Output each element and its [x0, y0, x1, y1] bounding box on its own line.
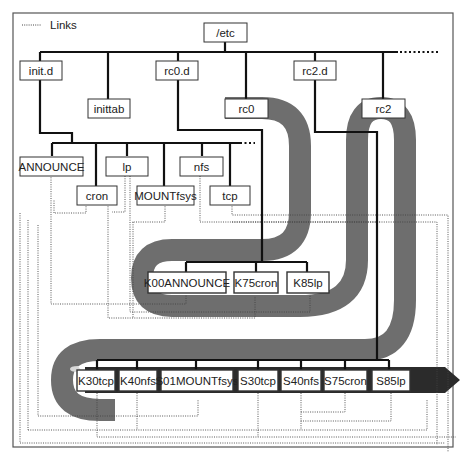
- svg-text:S01MOUNTfsys: S01MOUNTfsys: [155, 375, 238, 387]
- etc-rc-directory-diagram: Links: [0, 0, 465, 459]
- svg-text:rc0.d: rc0.d: [164, 65, 190, 77]
- node-rc2-d[interactable]: rc2.d: [294, 61, 336, 80]
- node-mountfsys[interactable]: MOUNTfsys: [134, 186, 197, 205]
- node-k30tcp[interactable]: K30tcp: [77, 370, 115, 391]
- svg-text:MOUNTfsys: MOUNTfsys: [134, 190, 197, 202]
- node-etc[interactable]: /etc: [204, 23, 247, 42]
- legend-label: Links: [50, 19, 77, 31]
- svg-text:init.d: init.d: [29, 65, 53, 77]
- svg-text:/etc: /etc: [216, 27, 235, 39]
- svg-text:rc2: rc2: [376, 103, 392, 115]
- node-k40nfs[interactable]: K40nfs: [119, 370, 157, 391]
- svg-text:inittab: inittab: [94, 103, 125, 115]
- svg-text:S30tcp: S30tcp: [240, 375, 276, 387]
- node-rc2[interactable]: rc2: [362, 99, 405, 118]
- node-rc0-d[interactable]: rc0.d: [156, 61, 198, 80]
- svg-text:S75cron: S75cron: [324, 375, 367, 387]
- node-s75cron[interactable]: S75cron: [324, 370, 367, 391]
- svg-text:cron: cron: [86, 190, 108, 202]
- svg-text:K00ANNOUNCE: K00ANNOUNCE: [144, 277, 231, 289]
- node-s85lp[interactable]: S85lp: [372, 370, 410, 391]
- node-k75cron[interactable]: K75cron: [234, 272, 278, 293]
- svg-text:K40nfs: K40nfs: [120, 375, 156, 387]
- svg-text:K30tcp: K30tcp: [78, 375, 114, 387]
- node-cron[interactable]: cron: [77, 186, 117, 205]
- node-init-d[interactable]: init.d: [20, 61, 62, 80]
- svg-text:K75cron: K75cron: [235, 277, 278, 289]
- node-nfs[interactable]: nfs: [180, 157, 223, 176]
- node-tcp[interactable]: tcp: [210, 186, 250, 205]
- svg-text:S85lp: S85lp: [376, 375, 405, 387]
- node-s01mountfsys[interactable]: S01MOUNTfsys: [155, 370, 238, 391]
- node-k85lp[interactable]: K85lp: [287, 272, 329, 293]
- node-inittab[interactable]: inittab: [88, 99, 130, 118]
- svg-text:tcp: tcp: [222, 190, 237, 202]
- node-announce[interactable]: ANNOUNCE: [19, 157, 85, 176]
- node-k00announce[interactable]: K00ANNOUNCE: [144, 272, 231, 293]
- node-s40nfs[interactable]: S40nfs: [281, 370, 321, 391]
- svg-text:S40nfs: S40nfs: [283, 375, 319, 387]
- svg-text:rc2.d: rc2.d: [302, 65, 328, 77]
- svg-text:ANNOUNCE: ANNOUNCE: [19, 161, 85, 173]
- svg-text:lp: lp: [123, 161, 132, 173]
- svg-text:K85lp: K85lp: [293, 277, 322, 289]
- node-rc0[interactable]: rc0: [225, 99, 268, 118]
- node-lp[interactable]: lp: [106, 157, 148, 176]
- node-s30tcp[interactable]: S30tcp: [238, 370, 278, 391]
- svg-text:nfs: nfs: [194, 161, 210, 173]
- svg-text:rc0: rc0: [239, 103, 255, 115]
